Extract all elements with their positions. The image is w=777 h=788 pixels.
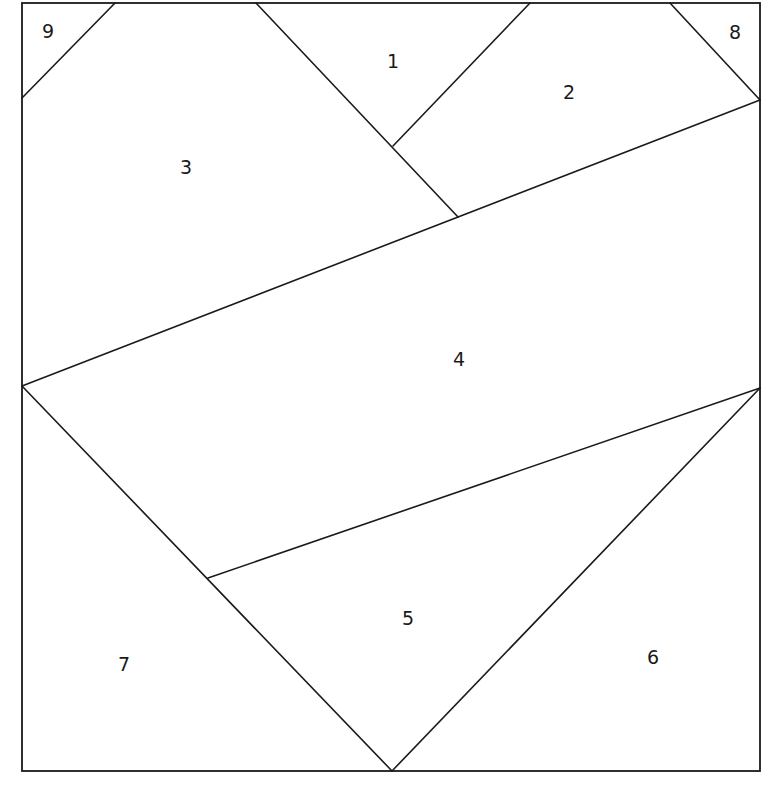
piece-label-5: 5 <box>402 607 414 629</box>
piece-label-4: 4 <box>453 348 465 370</box>
piece-label-8: 8 <box>729 21 741 43</box>
piece-label-6: 6 <box>647 646 659 668</box>
piece-label-7: 7 <box>118 653 130 675</box>
piece-label-3: 3 <box>180 156 192 178</box>
piece-label-1: 1 <box>387 50 399 72</box>
piecing-diagram: 123456789 <box>0 0 777 788</box>
piece-label-2: 2 <box>563 81 575 103</box>
piece-label-9: 9 <box>42 20 54 42</box>
